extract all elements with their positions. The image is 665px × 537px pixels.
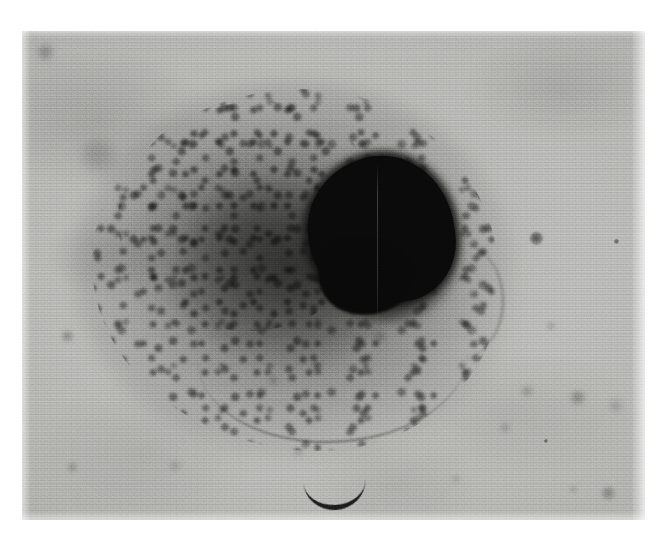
- photomicrograph-figure: [0, 0, 665, 537]
- film-grain-fine: [22, 31, 645, 520]
- photo-plate: [22, 31, 645, 520]
